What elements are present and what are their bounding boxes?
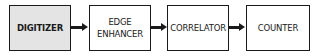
arrow-digitizer-to-edge-enhancer (71, 26, 84, 29)
block-label: CORRELATOR (170, 22, 226, 34)
block-label: EDGE ENHANCER (97, 16, 143, 40)
arrow-correlator-to-counter (229, 26, 241, 29)
block-label: COUNTER (258, 22, 298, 34)
block-label: DIGITIZER (17, 22, 63, 34)
arrow-edge-enhancer-to-correlator (151, 26, 163, 29)
block-edge-enhancer: EDGE ENHANCER (89, 5, 151, 51)
block-digitizer: DIGITIZER (9, 5, 71, 51)
block-counter: COUNTER (246, 5, 310, 51)
block-correlator: CORRELATOR (167, 5, 229, 51)
